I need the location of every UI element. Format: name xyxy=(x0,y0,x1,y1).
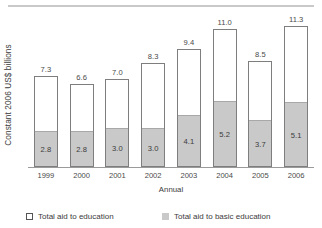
bar-total-value-label: 8.3 xyxy=(134,52,172,61)
bar-total-value-label: 6.6 xyxy=(63,73,101,82)
chart-legend: Total aid to education Total aid to basi… xyxy=(26,209,316,223)
x-axis-tick-label: 2006 xyxy=(277,171,315,180)
x-axis-tick-label: 2005 xyxy=(241,171,279,180)
bar-basic-value-label: 2.8 xyxy=(34,145,58,154)
x-axis-tick-label: 2001 xyxy=(98,171,136,180)
bar-total-aid-to-education[interactable] xyxy=(70,84,94,167)
bar-series-container: 2.87.32.86.63.07.03.08.34.19.45.211.03.7… xyxy=(28,18,314,167)
x-axis-tick-label: 2004 xyxy=(206,171,244,180)
bar-total-value-label: 8.5 xyxy=(241,50,279,59)
top-divider-rule xyxy=(8,5,314,7)
bar-total-aid-to-education[interactable] xyxy=(284,26,308,167)
bar-total-value-label: 7.3 xyxy=(27,65,65,74)
bar-total-aid-to-education[interactable] xyxy=(177,49,201,167)
bar-basic-value-label: 4.1 xyxy=(177,137,201,146)
legend-label: Total aid to basic education xyxy=(174,212,271,221)
bar-basic-value-label: 5.2 xyxy=(213,130,237,139)
x-axis-tick-label: 1999 xyxy=(27,171,65,180)
bar-total-aid-to-education[interactable] xyxy=(105,79,129,167)
bar-total-value-label: 11.3 xyxy=(277,15,315,24)
bar-total-value-label: 9.4 xyxy=(170,38,208,47)
open-square-icon xyxy=(26,213,33,220)
bar-total-value-label: 11.0 xyxy=(206,18,244,27)
filled-square-icon xyxy=(162,213,169,220)
bar-basic-value-label: 3.0 xyxy=(105,144,129,153)
x-axis-line xyxy=(28,167,314,168)
x-axis-tick-label: 2003 xyxy=(170,171,208,180)
bar-basic-value-label: 2.8 xyxy=(70,145,94,154)
x-axis-title: Annual xyxy=(28,185,314,194)
legend-label: Total aid to education xyxy=(38,212,114,221)
y-axis-title: Constant 2006 US$ billions xyxy=(2,42,16,148)
bar-basic-value-label: 3.7 xyxy=(248,140,272,149)
x-axis-tick-labels: 19992000200120022003200420052006 xyxy=(28,171,314,183)
bar-basic-value-label: 5.1 xyxy=(284,131,308,140)
x-axis-tick-label: 2000 xyxy=(63,171,101,180)
chart-figure: Constant 2006 US$ billions 2.87.32.86.63… xyxy=(0,0,322,228)
bar-total-value-label: 7.0 xyxy=(98,68,136,77)
bar-basic-value-label: 3.0 xyxy=(141,144,165,153)
plot-area: 2.87.32.86.63.07.03.08.34.19.45.211.03.7… xyxy=(28,18,314,168)
x-axis-tick-label: 2002 xyxy=(134,171,172,180)
legend-item-total-aid-to-education: Total aid to education xyxy=(26,209,114,223)
bar-total-aid-to-education[interactable] xyxy=(248,61,272,167)
bar-total-aid-to-education[interactable] xyxy=(213,29,237,167)
legend-item-total-aid-to-basic-education: Total aid to basic education xyxy=(162,209,271,223)
